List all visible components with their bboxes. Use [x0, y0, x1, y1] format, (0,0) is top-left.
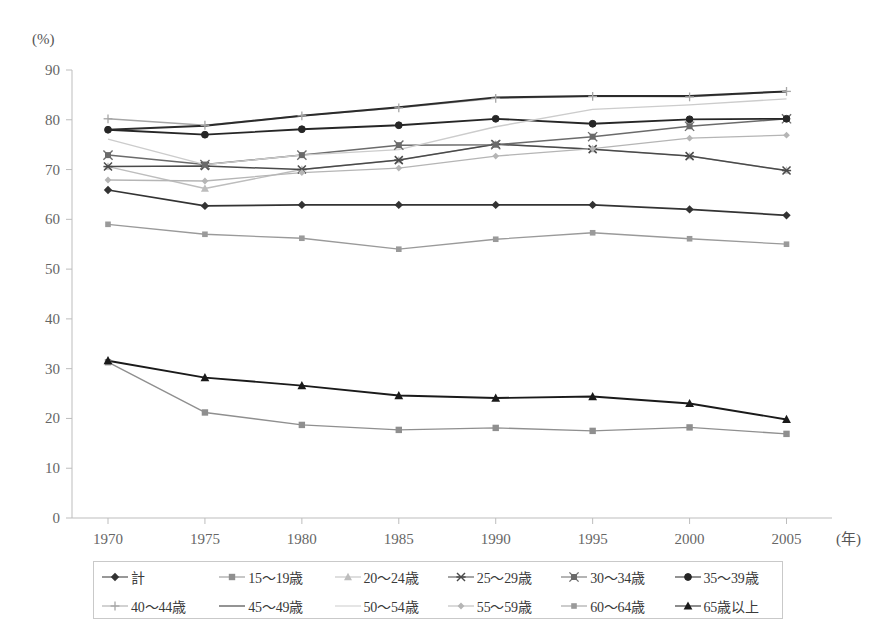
legend-item-25～29歳[interactable]: 25～29歳: [448, 567, 561, 587]
legend-swatch-square-icon: [219, 571, 245, 583]
marker-diamond-small: [457, 602, 464, 609]
marker-square-small: [590, 230, 596, 236]
series-8: [108, 99, 787, 165]
legend-swatch-diamond-small-icon: [448, 600, 474, 612]
y-tick-label: 80: [45, 112, 60, 128]
marker-square-small: [299, 235, 305, 241]
marker-circle: [395, 122, 402, 129]
legend-swatch-diamond-icon: [102, 571, 128, 583]
marker-square-small: [687, 236, 693, 242]
series-3: [108, 144, 787, 170]
legend-marker-diamond-small-icon: [454, 599, 468, 613]
legend-swatch-none-icon: [335, 600, 361, 612]
x-tick-label: 1975: [190, 531, 220, 547]
marker-square: [299, 422, 305, 428]
y-tick-label: 60: [45, 211, 60, 227]
legend-item-45～49歳[interactable]: 45～49歳: [219, 596, 334, 616]
legend-swatch-star-icon: [448, 571, 474, 583]
data-point-diamond-small: [783, 132, 790, 139]
data-point-square-small: [105, 222, 111, 228]
legend-marker-circle-icon: [681, 570, 695, 584]
line-chart-plot: 0102030405060708090(%)197019751980198519…: [0, 0, 877, 560]
legend-swatch-circle-icon: [675, 571, 701, 583]
legend-item-20～24歳[interactable]: 20～24歳: [335, 567, 448, 587]
x-tick-label: 1980: [287, 531, 317, 547]
marker-triangle-filled: [683, 601, 692, 609]
data-point-circle: [684, 573, 691, 580]
marker-square: [589, 428, 595, 434]
x-tick-label: 2005: [772, 531, 802, 547]
marker-diamond-small: [202, 178, 209, 185]
legend-label: 60～64歳: [590, 596, 645, 616]
data-point-square-small: [493, 236, 499, 242]
series-9: [108, 135, 787, 181]
legend-item-35～39歳[interactable]: 35～39歳: [675, 567, 782, 587]
marker-diamond: [492, 201, 500, 209]
data-point-square: [202, 409, 208, 415]
series-1: [108, 362, 787, 434]
data-point-square: [299, 422, 305, 428]
data-point-square: [229, 573, 235, 579]
series-10: [108, 224, 787, 249]
data-point-square: [686, 424, 692, 430]
legend-swatch-none-icon: [219, 600, 245, 612]
data-point-square: [396, 427, 402, 433]
data-point-plus: [394, 103, 403, 112]
data-point-plus: [685, 92, 694, 101]
legend-marker-diamond-icon: [108, 570, 122, 584]
data-point-diamond: [588, 201, 596, 209]
data-point-square-small: [784, 241, 790, 247]
data-point-plus: [782, 87, 791, 96]
marker-diamond-small: [783, 132, 790, 139]
marker-diamond-small: [686, 135, 693, 142]
data-point-square: [783, 431, 789, 437]
y-tick-label: 0: [53, 510, 61, 526]
legend-item-計[interactable]: 計: [102, 567, 219, 587]
data-point-diamond-small: [492, 153, 499, 160]
marker-square-small: [784, 241, 790, 247]
legend-label: 30～34歳: [590, 567, 645, 587]
data-point-square-small: [571, 603, 577, 609]
legend-swatch-star-square-icon: [561, 571, 587, 583]
legend-item-60～64歳[interactable]: 60～64歳: [561, 596, 674, 616]
legend-label: 65歳以上: [704, 596, 759, 616]
data-point-circle: [202, 131, 209, 138]
x-tick-label: 1985: [384, 531, 414, 547]
series-line: [108, 362, 787, 434]
x-tick-label: 1990: [481, 531, 511, 547]
y-tick-label: 10: [45, 460, 60, 476]
legend-swatch-triangle-icon: [335, 571, 361, 583]
data-point-circle: [298, 126, 305, 133]
legend-label: 計: [131, 567, 145, 587]
legend-marker-star-square-icon: [567, 570, 581, 584]
data-point-square-small: [202, 231, 208, 237]
marker-square: [783, 431, 789, 437]
data-point-circle: [589, 120, 596, 127]
data-point-triangle: [344, 572, 352, 579]
data-point-star-square: [570, 572, 579, 581]
legend-item-40～44歳[interactable]: 40～44歳: [102, 596, 219, 616]
legend-marker-plus-icon: [108, 599, 122, 613]
legend-item-30～34歳[interactable]: 30～34歳: [561, 567, 674, 587]
marker-square: [229, 573, 235, 579]
data-point-diamond: [395, 201, 403, 209]
marker-diamond-small: [395, 165, 402, 172]
legend-marker-triangle-filled-icon: [681, 599, 695, 613]
data-point-diamond-small: [686, 135, 693, 142]
data-point-square-small: [299, 235, 305, 241]
marker-diamond: [685, 205, 693, 213]
data-point-plus: [297, 111, 306, 120]
legend-item-15～19歳[interactable]: 15～19歳: [219, 567, 334, 587]
marker-square-small: [571, 603, 577, 609]
marker-square-small: [202, 231, 208, 237]
marker-circle: [684, 573, 691, 580]
legend-item-55～59歳[interactable]: 55～59歳: [448, 596, 561, 616]
legend-item-50～54歳[interactable]: 50～54歳: [335, 596, 448, 616]
legend-label: 40～44歳: [131, 596, 186, 616]
data-point-diamond: [111, 572, 119, 580]
series-line: [108, 99, 787, 165]
marker-diamond-small: [105, 177, 112, 184]
legend-swatch-square-small-icon: [561, 600, 587, 612]
legend-item-65歳以上[interactable]: 65歳以上: [675, 596, 782, 616]
marker-square-small: [105, 222, 111, 228]
